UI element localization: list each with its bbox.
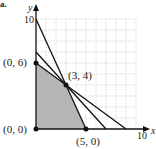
x-max-tick: 10 [137, 130, 147, 141]
label-0-0: (0, 0) [3, 123, 27, 136]
y-max-tick: 10 [24, 14, 34, 25]
y-axis-arrow-icon [33, 4, 39, 11]
figure-marker: a. [0, 0, 7, 9]
point-0-0 [34, 127, 39, 132]
label-5-0: (5, 0) [76, 135, 100, 148]
feasible-region-chart: a. y x 10 10 [0, 0, 156, 149]
label-0-6: (0, 6) [3, 56, 27, 69]
point-5-0 [84, 127, 89, 132]
point-0-6 [34, 61, 39, 66]
point-3-4 [64, 83, 69, 88]
label-3-4: (3, 4) [68, 69, 92, 82]
x-axis-label: x [150, 125, 156, 136]
y-axis-label: y [27, 2, 33, 13]
